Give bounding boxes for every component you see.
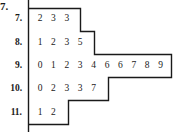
leaf-digit: 2 (48, 83, 58, 93)
leaf-digit: 3 (75, 60, 85, 70)
leaf-digit: 3 (62, 83, 72, 93)
leaf-digit: 1 (35, 107, 45, 117)
leaf-digit: 3 (62, 13, 72, 23)
leaf-digit: 0 (35, 60, 45, 70)
leaf-digit: 6 (102, 60, 112, 70)
leaf-digit: 6 (115, 60, 125, 70)
leaf-digit: 3 (75, 83, 85, 93)
leaf-digit: 0 (35, 83, 45, 93)
leaf-digit: 2 (35, 13, 45, 23)
leaf-digit: 2 (48, 107, 58, 117)
leaf-digit: 1 (35, 37, 45, 47)
stem-label: 8. (2, 37, 22, 47)
leaf-digit: 7 (89, 83, 99, 93)
leaf-digit: 7 (129, 60, 139, 70)
leaf-digit: 5 (75, 37, 85, 47)
stem-label: 11. (2, 107, 22, 117)
leaf-digit: 9 (156, 60, 166, 70)
stem-label: 10. (2, 83, 22, 93)
leaf-digit: 1 (48, 60, 58, 70)
leaf-digit: 2 (48, 37, 58, 47)
stem-label: 7. (2, 13, 22, 23)
leaf-digit: 2 (62, 60, 72, 70)
leaf-digit: 8 (142, 60, 152, 70)
stem-label: 9. (2, 60, 22, 70)
leaf-digit: 3 (48, 13, 58, 23)
leaf-digit: 4 (89, 60, 99, 70)
leaf-digit: 3 (62, 37, 72, 47)
